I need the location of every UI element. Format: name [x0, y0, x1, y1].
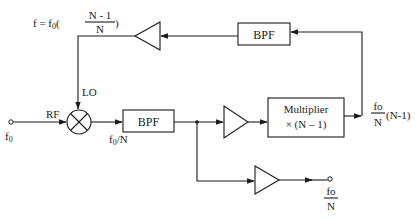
multiplier-output-label: fo N (N-1): [371, 100, 411, 128]
fraction-denominator: N: [96, 23, 104, 35]
bpf-rest: /N: [117, 133, 128, 145]
frequency-divider-diagram: BPF f = f0( N - 1 N ) LO f0 RF f0/N BPF: [0, 0, 415, 220]
input-label: f0: [5, 130, 13, 144]
div-out-numerator: fo: [326, 185, 336, 197]
top-bpf-block: BPF: [238, 23, 290, 45]
mult-out-numerator: fo: [373, 100, 383, 112]
multiplier-factor-label: × (N – 1): [286, 118, 327, 131]
multiplier-label: Multiplier: [284, 103, 329, 115]
output-terminal: [328, 177, 332, 181]
div-out-denominator: N: [327, 200, 335, 212]
top-amplifier-triangle: [135, 22, 160, 50]
svg-text:f = f0(: f = f0(: [33, 17, 60, 31]
divided-output-label: fo N: [324, 185, 338, 212]
input-sub: 0: [9, 135, 13, 144]
bpf-input-freq-label: f0/N: [109, 133, 128, 147]
paren-open: (: [56, 17, 60, 30]
mixer: [67, 110, 91, 134]
top-bpf-label: BPF: [253, 28, 275, 42]
fraction-numerator: N - 1: [89, 9, 112, 21]
f-equals-text: f = f: [33, 17, 52, 29]
multiplier-block: Multiplier × (N – 1): [268, 98, 344, 137]
lo-label: LO: [82, 86, 97, 98]
mid-amplifier-triangle: [224, 106, 248, 138]
lo-wire: [78, 36, 135, 109]
main-bpf-label: BPF: [138, 115, 160, 129]
rf-label: RF: [46, 108, 59, 120]
feedback-frequency-label: f = f0( N - 1 N ): [33, 9, 119, 35]
main-bpf-block: BPF: [123, 110, 174, 132]
output-amplifier-triangle: [255, 166, 279, 194]
mult-out-denominator: N: [374, 116, 382, 128]
mult-out-factor: (N-1): [386, 109, 411, 122]
paren-close: ): [115, 17, 119, 30]
input-terminal: [9, 120, 13, 124]
